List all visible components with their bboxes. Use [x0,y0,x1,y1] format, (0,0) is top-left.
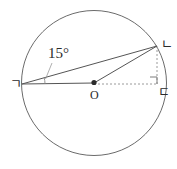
diagram-canvas: 15° ㄱ ㄴ ㄷ O [0,0,177,169]
right-angle-marker [150,77,157,84]
vertex-label-n: ㄴ [161,37,173,50]
center-point-dot [91,80,96,85]
segment-o-to-n [94,46,157,83]
angle-arc [44,78,45,84]
segment-g-to-o [22,83,94,84]
geometry-figure [0,0,177,169]
vertex-label-g: ㄱ [10,77,22,90]
angle-label: 15° [48,46,69,61]
center-label-o: O [90,89,99,101]
segment-g-to-n [22,46,157,84]
vertex-label-d: ㄷ [158,85,170,98]
